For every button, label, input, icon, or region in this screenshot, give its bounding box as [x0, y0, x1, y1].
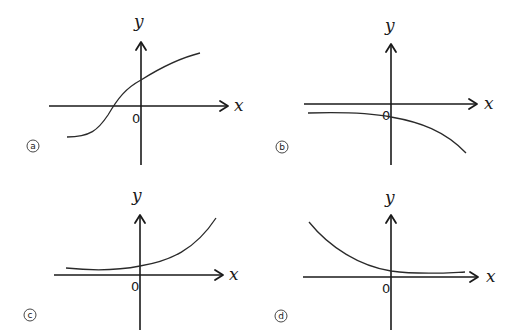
- graph-options-figure: x y 0 a x y 0 b x y 0 c x y: [0, 0, 517, 330]
- origin-label: 0: [131, 279, 139, 294]
- x-axis-label: x: [229, 264, 239, 284]
- curve-c: [66, 218, 216, 270]
- option-label-d: d: [278, 311, 284, 321]
- x-axis-label: x: [234, 95, 244, 115]
- panel-d: x y 0 d: [275, 187, 496, 330]
- option-label-b: b: [279, 142, 285, 152]
- panel-a: x y 0 a: [27, 11, 244, 165]
- panel-b: x y 0 b: [276, 15, 494, 165]
- panel-c: x y 0 c: [24, 185, 239, 330]
- origin-label: 0: [132, 111, 140, 126]
- y-axis-label: y: [384, 15, 395, 35]
- curve-d: [309, 222, 465, 273]
- x-axis-label: x: [484, 93, 494, 113]
- x-axis-label: x: [486, 266, 496, 286]
- y-axis-label: y: [384, 187, 395, 207]
- origin-label: 0: [382, 281, 390, 296]
- option-label-a: a: [30, 141, 36, 151]
- option-label-c: c: [28, 310, 33, 320]
- y-axis-label: y: [133, 11, 144, 31]
- y-axis-label: y: [131, 185, 142, 205]
